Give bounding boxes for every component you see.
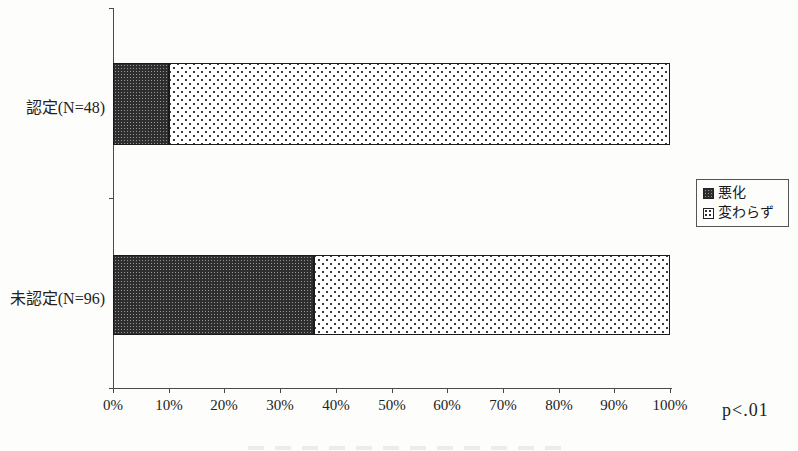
category-axis-tick-1 bbox=[109, 198, 113, 199]
segment-unchanged-row-1 bbox=[169, 63, 670, 145]
x-tick-label-10: 100% bbox=[653, 397, 688, 414]
x-axis-tick-7 bbox=[503, 389, 504, 393]
stacked-bar-chart-figure: 認定(N=48)未認定(N=96)0%10%20%30%40%50%60%70%… bbox=[0, 0, 798, 451]
significance-annotation: p<.01 bbox=[722, 400, 769, 421]
x-axis-tick-1 bbox=[169, 389, 170, 393]
legend-item-worsened: 悪化 bbox=[703, 185, 782, 201]
x-axis-tick-8 bbox=[559, 389, 560, 393]
category-axis-tick-0 bbox=[109, 8, 113, 9]
x-axis-tick-0 bbox=[113, 389, 114, 393]
x-tick-label-2: 20% bbox=[210, 397, 238, 414]
x-axis-tick-4 bbox=[336, 389, 337, 393]
x-axis-tick-5 bbox=[392, 389, 393, 393]
bar-row-2 bbox=[113, 255, 670, 335]
x-tick-label-3: 30% bbox=[266, 397, 294, 414]
category-label-2: 未認定(N=96) bbox=[0, 285, 105, 309]
x-tick-label-1: 10% bbox=[155, 397, 183, 414]
unchanged-pattern-swatch-icon bbox=[703, 208, 714, 219]
segment-unchanged-row-2 bbox=[314, 255, 670, 335]
x-axis-tick-9 bbox=[614, 389, 615, 393]
x-tick-label-4: 40% bbox=[322, 397, 350, 414]
x-axis-tick-6 bbox=[447, 389, 448, 393]
x-tick-label-0: 0% bbox=[103, 397, 123, 414]
legend-label-worsened: 悪化 bbox=[718, 185, 746, 201]
x-tick-label-8: 80% bbox=[545, 397, 573, 414]
segment-worsened-row-1 bbox=[113, 63, 169, 145]
legend-item-unchanged: 変わらず bbox=[703, 205, 782, 221]
worsened-pattern-swatch-icon bbox=[703, 188, 714, 199]
caption-cutoff-strip bbox=[248, 446, 563, 450]
bar-row-1 bbox=[113, 63, 670, 145]
legend-label-unchanged: 変わらず bbox=[718, 205, 774, 221]
category-label-1: 認定(N=48) bbox=[0, 94, 105, 118]
x-tick-label-5: 50% bbox=[378, 397, 406, 414]
x-axis-tick-3 bbox=[280, 389, 281, 393]
x-tick-label-9: 90% bbox=[600, 397, 628, 414]
legend: 悪化 変わらず bbox=[696, 179, 789, 227]
x-tick-label-6: 60% bbox=[433, 397, 461, 414]
segment-worsened-row-2 bbox=[113, 255, 314, 335]
x-tick-label-7: 70% bbox=[489, 397, 517, 414]
x-axis-tick-10 bbox=[670, 389, 671, 393]
x-axis-tick-2 bbox=[224, 389, 225, 393]
